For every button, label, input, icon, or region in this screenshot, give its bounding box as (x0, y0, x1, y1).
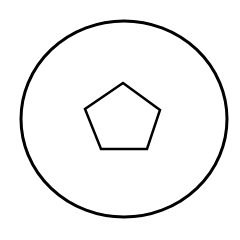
diagram-canvas (0, 0, 240, 240)
background (0, 0, 240, 240)
